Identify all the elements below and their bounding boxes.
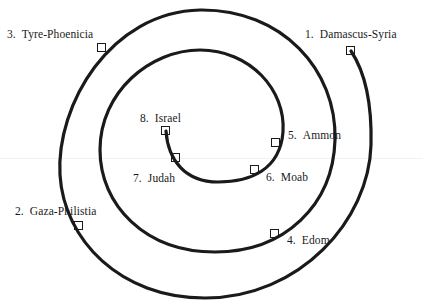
label-number: 8. <box>140 112 149 124</box>
label-gaza-philistia: 2.Gaza-Philistia <box>15 206 96 218</box>
label-text: Damascus-Syria <box>320 28 397 40</box>
label-judah: 7.Judah <box>133 173 175 185</box>
label-edom: 4.Edom <box>287 235 330 247</box>
marker-ammon <box>271 138 280 147</box>
marker-israel <box>161 126 170 135</box>
label-text: Moab <box>281 171 308 183</box>
marker-moab <box>250 165 259 174</box>
spiral-diagram: 1.Damascus-Syria 2.Gaza-Philistia 3.Tyre… <box>0 0 423 308</box>
marker-gaza-philistia <box>74 221 83 230</box>
label-text: Edom <box>302 234 330 246</box>
label-text: Gaza-Philistia <box>30 205 97 217</box>
spiral-path-graphic <box>0 0 423 308</box>
marker-judah <box>171 153 180 162</box>
label-number: 7. <box>133 172 142 184</box>
label-text: Tyre-Phoenicia <box>22 28 93 40</box>
label-number: 2. <box>15 205 24 217</box>
label-text: Judah <box>148 172 175 184</box>
label-damascus-syria: 1.Damascus-Syria <box>305 29 397 41</box>
label-number: 3. <box>7 28 16 40</box>
spiral-path <box>60 10 371 298</box>
marker-damascus-syria <box>346 46 355 55</box>
label-text: Ammon <box>303 129 341 141</box>
marker-edom <box>270 229 279 238</box>
label-moab: 6.Moab <box>266 172 308 184</box>
label-ammon: 5.Ammon <box>288 130 341 142</box>
label-number: 5. <box>288 129 297 141</box>
label-tyre-phoenicia: 3.Tyre-Phoenicia <box>7 29 93 41</box>
label-israel: 8.Israel <box>140 113 181 125</box>
label-text: Israel <box>155 112 181 124</box>
label-number: 6. <box>266 171 275 183</box>
label-number: 1. <box>305 28 314 40</box>
label-number: 4. <box>287 234 296 246</box>
marker-tyre-phoenicia <box>97 43 106 52</box>
